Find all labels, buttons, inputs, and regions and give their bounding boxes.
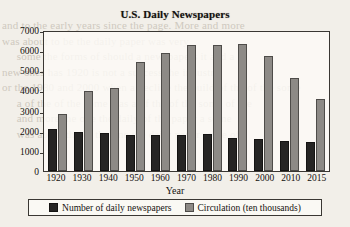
bar-1970-series-1 [187, 45, 196, 171]
x-axis-tick-labels: 1920193019401950196019701980199020002010… [43, 173, 330, 183]
bar-1990-series-0 [228, 138, 237, 171]
bar-1960-series-0 [151, 135, 160, 171]
bar-1930-series-0 [74, 132, 83, 171]
bar-group [254, 32, 273, 171]
bar-1990-series-1 [238, 44, 247, 171]
bar-1960-series-1 [161, 53, 170, 171]
bar-2000-series-1 [264, 56, 273, 171]
bar-1980-series-1 [213, 45, 222, 171]
bar-1940-series-0 [100, 133, 109, 171]
x-axis-tick-label: 1960 [148, 173, 172, 183]
legend-item-label: Number of daily newspapers [62, 203, 171, 213]
bar-1950-series-1 [136, 62, 145, 171]
bar-1950-series-0 [126, 135, 135, 171]
y-axis-tick-label: 2000 [2, 128, 44, 138]
bar-group [228, 32, 247, 171]
legend-item: Number of daily newspapers [49, 203, 171, 213]
y-axis-tick-label: 5000 [2, 68, 44, 78]
bar-group [100, 32, 119, 171]
bar-1980-series-0 [203, 134, 212, 171]
x-axis-tick-label: 1980 [201, 173, 225, 183]
y-axis-tick-label: 1000 [2, 148, 44, 158]
chart-title: U.S. Daily Newspapers [0, 8, 350, 20]
gray-square-icon [185, 203, 194, 212]
y-axis-tick-label: 3000 [2, 108, 44, 118]
bar-group [74, 32, 93, 171]
dark-square-icon [49, 203, 58, 212]
bar-2010-series-0 [280, 141, 289, 171]
x-axis-tick-label: 1950 [122, 173, 146, 183]
bar-1920-series-0 [48, 129, 57, 171]
bar-group [203, 32, 222, 171]
bar-1920-series-1 [58, 114, 67, 171]
bar-group [151, 32, 170, 171]
y-axis-tick-label: 7000 [2, 27, 44, 37]
legend-item-label: Circulation (ten thousands) [198, 203, 301, 213]
bar-groups [44, 32, 329, 171]
x-axis-tick-label: 2010 [279, 173, 303, 183]
x-axis-tick-label: 2015 [305, 173, 329, 183]
x-axis-tick-label: 1940 [96, 173, 120, 183]
bar-group [48, 32, 67, 171]
x-axis-tick-label: 1990 [227, 173, 251, 183]
bar-1970-series-0 [177, 135, 186, 171]
x-axis-tick-label: 1970 [174, 173, 198, 183]
y-axis-tick-label: 6000 [2, 47, 44, 57]
x-axis-title: Year [0, 185, 350, 196]
bar-group [126, 32, 145, 171]
bar-1930-series-1 [84, 91, 93, 171]
bar-1940-series-1 [110, 88, 119, 171]
y-axis-tick-label: 0 [2, 168, 44, 178]
bar-group [280, 32, 299, 171]
x-axis-tick-label: 1920 [44, 173, 68, 183]
chart-legend: Number of daily newspapersCirculation (t… [28, 199, 322, 216]
x-axis-tick-label: 2000 [253, 173, 277, 183]
x-axis-tick-label: 1930 [70, 173, 94, 183]
bar-group [177, 32, 196, 171]
legend-item: Circulation (ten thousands) [185, 203, 301, 213]
bar-group [306, 32, 325, 171]
bar-2000-series-0 [254, 139, 263, 171]
bar-2010-series-1 [290, 78, 299, 171]
plot-area: 01000200030004000500060007000 [43, 31, 330, 172]
bar-2015-series-1 [316, 99, 325, 171]
y-axis-tick-label: 4000 [2, 88, 44, 98]
bar-2015-series-0 [306, 142, 315, 171]
chart-figure: U.S. Daily Newspapers 010002000300040005… [0, 0, 350, 227]
